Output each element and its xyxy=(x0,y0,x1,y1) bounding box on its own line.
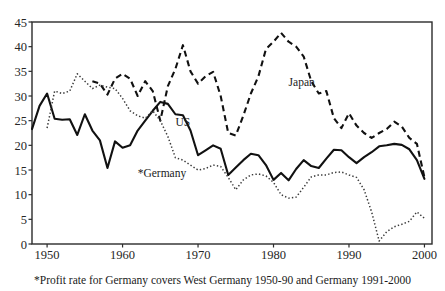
series-label-us: US xyxy=(175,116,190,128)
x-tick-label: 1980 xyxy=(261,248,286,262)
y-tick-label: 45 xyxy=(15,16,28,30)
x-tick-label: 1950 xyxy=(35,248,60,262)
x-tick-label: 1960 xyxy=(110,248,135,262)
y-tick-label: 25 xyxy=(15,114,28,128)
y-tick-label: 15 xyxy=(15,164,28,178)
profit-rate-chart: 051015202530354045 195019601970198019902… xyxy=(0,0,445,291)
x-tick-label: 1970 xyxy=(186,248,211,262)
x-tick-label: 2000 xyxy=(412,248,437,262)
chart-background xyxy=(0,0,445,291)
x-tick-label: 1990 xyxy=(336,248,361,262)
chart-footnote: *Profit rate for Germany covers West Ger… xyxy=(34,274,411,287)
y-tick-label: 35 xyxy=(15,65,28,79)
series-label-germany: *Germany xyxy=(138,167,187,180)
y-tick-label: 0 xyxy=(21,238,27,252)
y-tick-label: 10 xyxy=(15,188,28,202)
y-tick-label: 30 xyxy=(15,90,28,104)
series-label-japan: Japan xyxy=(289,76,315,89)
y-tick-label: 20 xyxy=(15,139,28,153)
y-tick-label: 5 xyxy=(21,213,27,227)
y-tick-label: 40 xyxy=(15,40,28,54)
